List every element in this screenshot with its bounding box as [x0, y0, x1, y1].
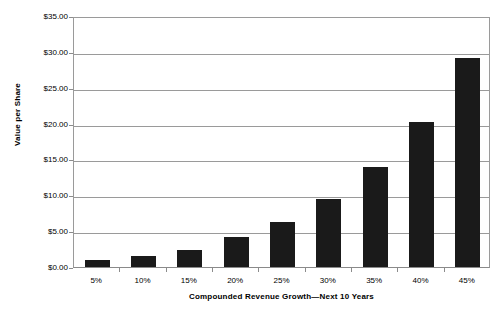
x-axis-tick-label: 5%: [73, 276, 119, 286]
x-axis-tick-mark: [397, 268, 398, 272]
bar: [224, 237, 249, 267]
x-axis-tick-mark: [305, 268, 306, 272]
x-axis-tick-mark: [166, 268, 167, 272]
y-axis-tick-label: $35.00: [4, 13, 68, 21]
x-axis-tick-mark: [119, 268, 120, 272]
bar: [316, 199, 341, 267]
y-axis-tick-label: $5.00: [4, 228, 68, 236]
x-axis-tick-label: 20%: [212, 276, 258, 286]
x-axis-tick-label: 15%: [166, 276, 212, 286]
y-axis-tick-labels: $0.00$5.00$10.00$15.00$20.00$25.00$30.00…: [0, 0, 68, 317]
x-axis-tick-label: 40%: [398, 276, 444, 286]
bar: [363, 167, 388, 267]
x-axis-tick-mark: [444, 268, 445, 272]
y-axis-tick-label: $10.00: [4, 192, 68, 200]
bar: [409, 122, 434, 267]
x-axis-tick-label: 45%: [444, 276, 490, 286]
y-axis-tick-label: $30.00: [4, 49, 68, 57]
bar-chart: Value per Share $0.00$5.00$10.00$15.00$2…: [0, 0, 502, 317]
x-axis-tick-marks: [73, 268, 490, 273]
x-axis-tick-labels: 5%10%15%20%25%30%35%40%45%: [73, 276, 490, 290]
y-axis-tick-label: $20.00: [4, 121, 68, 129]
x-axis-tick-mark: [351, 268, 352, 272]
x-axis-tick-label: 30%: [305, 276, 351, 286]
y-axis-tick-label: $25.00: [4, 85, 68, 93]
bar: [85, 260, 110, 267]
y-axis-tick-label: $15.00: [4, 156, 68, 164]
bar-series: [74, 18, 489, 267]
plot-area: [73, 17, 490, 268]
x-axis-tick-mark: [212, 268, 213, 272]
bar: [455, 58, 480, 267]
x-axis-tick-label: 35%: [351, 276, 397, 286]
x-axis-tick-label: 10%: [120, 276, 166, 286]
y-axis-tick-label: $0.00: [4, 264, 68, 272]
bar: [177, 250, 202, 267]
x-axis-title: Compounded Revenue Growth—Next 10 Years: [73, 292, 490, 301]
x-axis-tick-label: 25%: [259, 276, 305, 286]
x-axis-tick-mark: [258, 268, 259, 272]
bar: [131, 256, 156, 267]
bar: [270, 222, 295, 267]
